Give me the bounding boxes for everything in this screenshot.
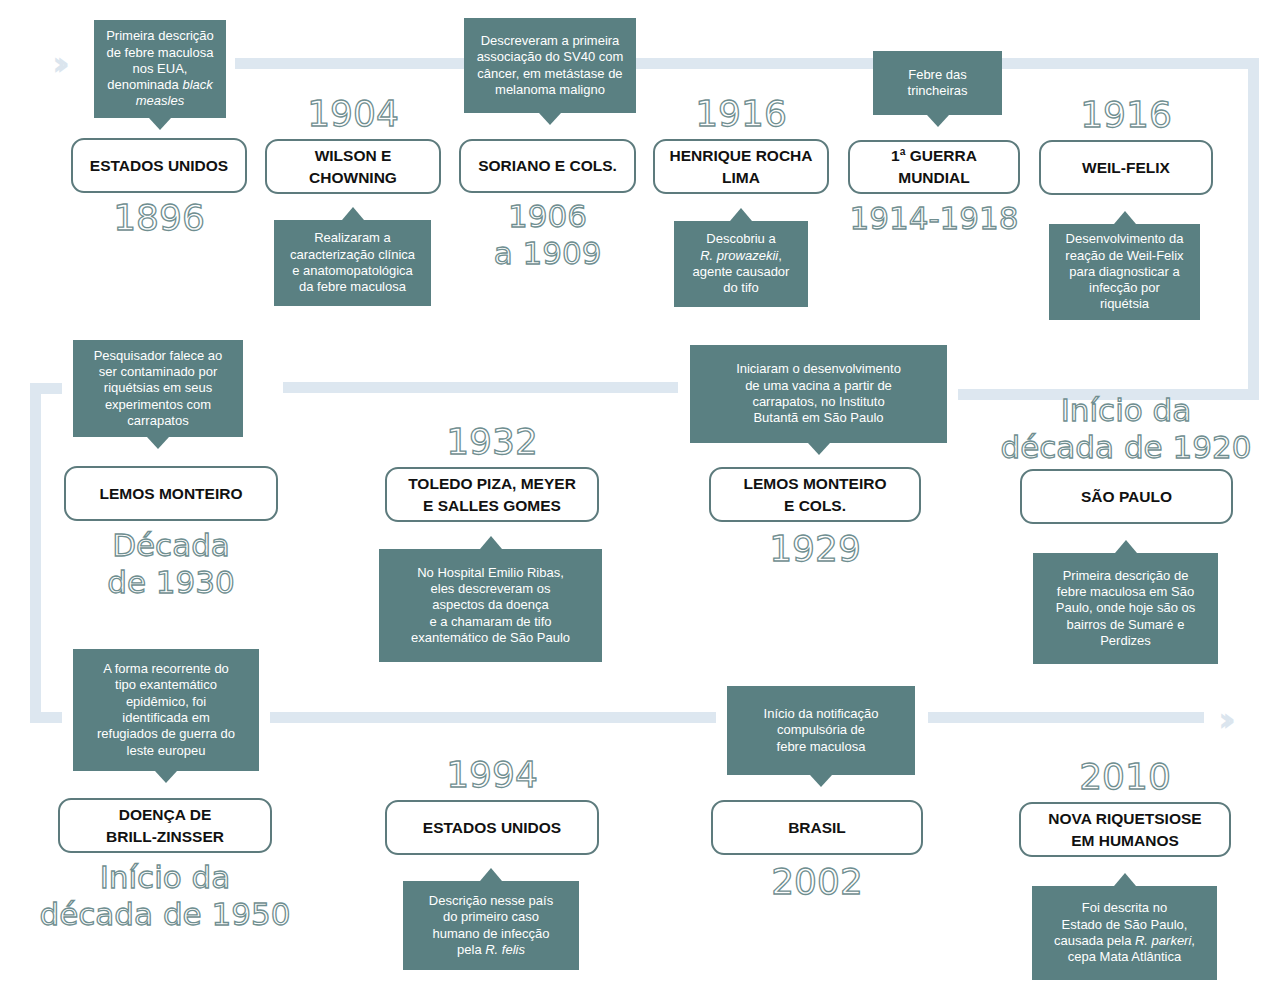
event-date: 1914-1918	[838, 200, 1030, 237]
event-box: DOENÇA DE BRILL-ZINSSER	[58, 798, 272, 853]
event-box: NOVA RIQUETSIOSE EM HUMANOS	[1019, 802, 1231, 857]
event-note: Primeira descrição de febre maculosa nos…	[94, 20, 226, 118]
event-date: 1916	[653, 95, 829, 133]
timeline-track-middle-left	[283, 382, 678, 393]
event-date: Década de 1930	[64, 527, 278, 601]
event-note: Início da notificação compulsória de feb…	[727, 686, 915, 775]
event-box: ESTADOS UNIDOS	[385, 800, 599, 855]
event-date: 1896	[71, 199, 247, 237]
event-box: 1ª GUERRA MUNDIAL	[848, 140, 1020, 194]
event-box: LEMOS MONTEIRO E COLS.	[709, 467, 921, 522]
note-text: Descrição nesse país do primeiro caso hu…	[429, 893, 553, 958]
event-date: 1994	[385, 756, 599, 794]
event-box: HENRIQUE ROCHA LIMA	[653, 139, 829, 194]
event-date: Início da década de 1950	[20, 859, 310, 933]
note-text: Descobriu a R. prowazekii, agente causad…	[693, 231, 790, 296]
event-date: 2002	[711, 863, 923, 901]
event-date: 2010	[1019, 758, 1231, 796]
double-chevron-right-icon: ››	[1218, 702, 1226, 736]
event-box: BRASIL	[711, 800, 923, 855]
event-date: Início da década de 1920	[990, 392, 1262, 466]
event-note: Descrição nesse país do primeiro caso hu…	[403, 881, 579, 970]
event-box: SORIANO E COLS.	[459, 139, 636, 193]
event-box: WEIL-FELIX	[1039, 140, 1213, 195]
timeline-track-bottom-mid	[270, 712, 716, 723]
double-chevron-right-icon: ››	[52, 46, 60, 80]
event-note: Descobriu a R. prowazekii, agente causad…	[674, 221, 808, 307]
timeline-track-bottom-stub	[30, 712, 62, 723]
event-note: Desenvolvimento da reação de Weil-Felix …	[1049, 224, 1200, 320]
event-note: Pesquisador falece ao ser contaminado po…	[73, 340, 243, 437]
event-note: Primeira descrição de febre maculosa em …	[1033, 553, 1218, 664]
event-note: Iniciaram o desenvolvimento de uma vacin…	[690, 345, 947, 443]
event-note: Foi descrita no Estado de São Paulo, cau…	[1032, 886, 1217, 980]
event-note: Realizaram a caracterização clínica e an…	[274, 220, 431, 306]
event-date: 1904	[265, 95, 441, 133]
event-box: LEMOS MONTEIRO	[64, 466, 278, 521]
timeline-track-top	[235, 58, 1259, 69]
event-box: TOLEDO PIZA, MEYER E SALLES GOMES	[385, 467, 599, 522]
timeline-track-right	[1248, 58, 1259, 400]
timeline-track-left	[30, 383, 41, 723]
note-text: Foi descrita no Estado de São Paulo, cau…	[1054, 900, 1195, 965]
note-text: Primeira descrição de febre maculosa nos…	[106, 28, 214, 109]
event-note: Descreveram a primeira associação do SV4…	[464, 18, 636, 113]
event-date: 1906 a 1909	[459, 198, 636, 272]
event-note: Febre das trincheiras	[873, 51, 1002, 115]
event-box: SÃO PAULO	[1020, 469, 1233, 524]
event-note: No Hospital Emilio Ribas, eles descrever…	[379, 549, 602, 662]
event-note: A forma recorrente do tipo exantemático …	[73, 649, 259, 771]
event-box: ESTADOS UNIDOS	[71, 138, 247, 193]
event-date: 1932	[385, 423, 599, 461]
event-box: WILSON E CHOWNING	[265, 139, 441, 194]
timeline-track-bottom-right	[928, 712, 1204, 723]
event-date: 1916	[1039, 96, 1213, 134]
event-date: 1929	[709, 530, 921, 568]
